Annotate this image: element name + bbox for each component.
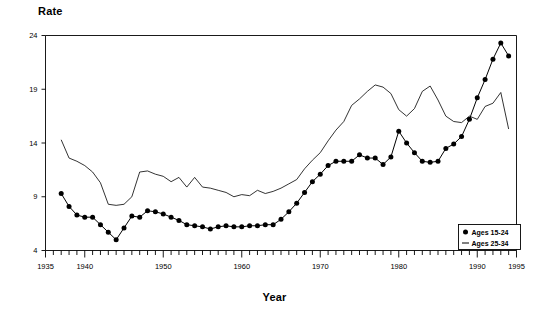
y-axis-ticks: 49141924	[29, 31, 45, 255]
data-series-group	[59, 41, 511, 243]
legend-label: Ages 15-24	[472, 229, 509, 237]
data-point-marker	[365, 156, 370, 161]
data-point-marker	[161, 211, 166, 216]
y-tick-label: 24	[29, 31, 37, 40]
data-point-marker	[239, 224, 244, 229]
data-point-marker	[428, 160, 433, 165]
data-point-marker	[208, 227, 213, 232]
y-tick-label: 19	[29, 85, 37, 94]
data-point-marker	[483, 77, 488, 82]
data-point-marker	[349, 159, 354, 164]
x-tick-label: 1960	[233, 262, 250, 271]
x-tick-label: 1935	[37, 262, 54, 271]
data-point-marker	[310, 179, 315, 184]
data-point-marker	[224, 223, 229, 228]
data-point-marker	[373, 156, 378, 161]
data-point-marker	[475, 95, 480, 100]
data-point-marker	[388, 154, 393, 159]
data-point-marker	[451, 142, 456, 147]
data-point-marker	[490, 57, 495, 62]
y-tick-label: 4	[33, 246, 37, 255]
data-point-marker	[412, 150, 417, 155]
x-tick-label: 1940	[76, 262, 93, 271]
data-point-marker	[231, 224, 236, 229]
data-point-marker	[184, 222, 189, 227]
y-tick-label: 14	[29, 139, 37, 148]
chart-plot-area: 49141924 1935194019501960197019801990199…	[0, 0, 549, 322]
x-tick-label: 1970	[312, 262, 329, 271]
data-point-marker	[192, 223, 197, 228]
data-point-marker	[341, 159, 346, 164]
data-point-marker	[318, 172, 323, 177]
y-axis-title: Rate	[38, 5, 63, 17]
data-point-marker	[247, 223, 252, 228]
data-point-marker	[436, 159, 441, 164]
x-tick-label: 1995	[508, 262, 525, 271]
data-point-marker	[169, 215, 174, 220]
data-point-marker	[506, 53, 511, 58]
data-point-marker	[279, 217, 284, 222]
data-point-marker	[59, 191, 64, 196]
data-point-marker	[459, 134, 464, 139]
data-point-marker	[333, 159, 338, 164]
data-point-marker	[200, 224, 205, 229]
x-axis-ticks: 19351940195019601970198019901995	[37, 251, 525, 271]
legend-marker-diamond-icon	[463, 230, 468, 235]
data-point-marker	[216, 224, 221, 229]
data-point-marker	[326, 163, 331, 168]
data-point-marker	[82, 215, 87, 220]
data-point-marker	[129, 214, 134, 219]
data-point-marker	[255, 223, 260, 228]
data-point-marker	[122, 225, 127, 230]
data-point-marker	[404, 141, 409, 146]
chart-legend: Ages 15-24Ages 25-34	[459, 225, 521, 250]
data-point-marker	[302, 190, 307, 195]
data-point-marker	[357, 152, 362, 157]
data-point-marker	[263, 222, 268, 227]
data-line-ages-15-24	[61, 43, 508, 240]
data-point-marker	[443, 146, 448, 151]
data-point-marker	[90, 215, 95, 220]
data-point-marker	[286, 209, 291, 214]
data-point-marker	[145, 208, 150, 213]
chart-container: Rate Year 49141924 193519401950196019701…	[0, 0, 549, 322]
data-point-marker	[294, 201, 299, 206]
data-point-marker	[271, 222, 276, 227]
legend-label: Ages 25-34	[472, 240, 509, 248]
data-line-ages-25-34	[61, 85, 508, 205]
data-point-marker	[396, 129, 401, 134]
data-point-marker	[114, 237, 119, 242]
x-tick-label: 1990	[469, 262, 486, 271]
data-point-marker	[137, 215, 142, 220]
x-tick-label: 1950	[155, 262, 172, 271]
data-point-marker	[106, 230, 111, 235]
data-point-marker	[98, 222, 103, 227]
data-point-marker	[74, 213, 79, 218]
y-tick-label: 9	[33, 192, 37, 201]
data-point-marker	[420, 159, 425, 164]
data-point-marker	[176, 218, 181, 223]
data-point-marker	[498, 41, 503, 46]
data-point-marker	[153, 209, 158, 214]
x-tick-label: 1980	[390, 262, 407, 271]
data-point-marker	[381, 162, 386, 167]
data-point-marker	[67, 204, 72, 209]
x-axis-title: Year	[0, 291, 549, 303]
